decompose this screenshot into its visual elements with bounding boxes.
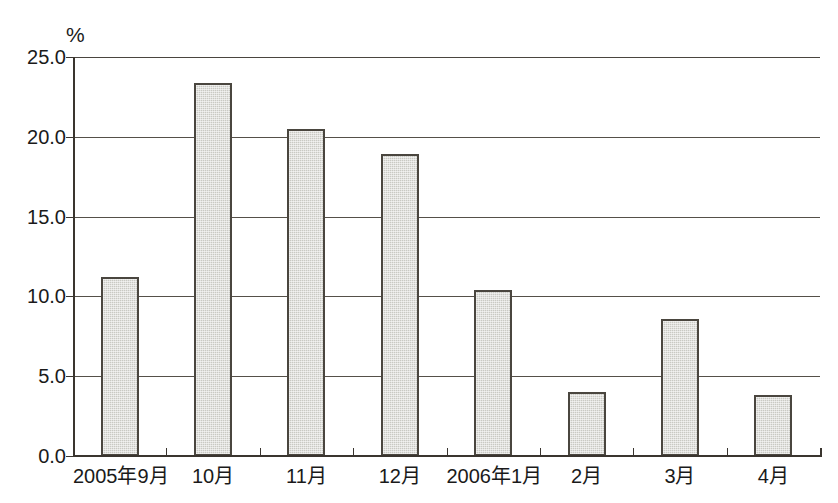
- y-axis-tick: [66, 456, 74, 457]
- x-axis-category-label: 2005年9月: [73, 465, 166, 487]
- bar: [194, 83, 232, 456]
- x-axis-tick: [447, 448, 448, 456]
- y-axis-tick-label: 0.0: [2, 446, 66, 466]
- y-axis-tick: [66, 57, 74, 58]
- bar: [568, 392, 606, 456]
- y-axis-tick-label: 25.0: [2, 47, 66, 67]
- x-axis-category-label: 11月: [260, 465, 353, 487]
- x-axis-line: [73, 455, 822, 457]
- y-axis-tick: [66, 217, 74, 218]
- bar-chart: % 0.05.010.015.020.025.0 2005年9月10月11月12…: [0, 0, 838, 503]
- y-axis-unit-label: %: [66, 24, 85, 45]
- y-axis-tick-label: 20.0: [2, 127, 66, 147]
- x-axis-category-label: 4月: [727, 465, 820, 487]
- y-axis-tick-label: 10.0: [2, 286, 66, 306]
- x-axis-right-cap: [820, 448, 822, 457]
- x-axis-category-label: 3月: [633, 465, 726, 487]
- bar: [754, 395, 792, 456]
- x-axis-category-label: 2006年1月: [447, 465, 540, 487]
- x-axis-category-label: 12月: [353, 465, 446, 487]
- bar: [661, 319, 699, 456]
- gridline: [73, 296, 820, 297]
- x-axis-category-label: 2月: [540, 465, 633, 487]
- x-axis-category-label: 10月: [166, 465, 259, 487]
- y-axis-tick-label: 15.0: [2, 207, 66, 227]
- gridline: [73, 57, 820, 58]
- x-axis-tick: [727, 448, 728, 456]
- bar: [474, 290, 512, 456]
- plot-area: [73, 57, 820, 456]
- y-axis-tick: [66, 137, 74, 138]
- gridline: [73, 137, 820, 138]
- bar: [287, 129, 325, 456]
- y-axis-tick: [66, 376, 74, 377]
- x-axis-tick: [166, 448, 167, 456]
- gridline: [73, 376, 820, 377]
- y-axis-tick: [66, 296, 74, 297]
- bar: [381, 154, 419, 456]
- x-axis-tick: [353, 448, 354, 456]
- x-axis-tick: [260, 448, 261, 456]
- y-axis-line: [73, 57, 75, 457]
- bar: [101, 277, 139, 456]
- y-axis-tick-label: 5.0: [2, 366, 66, 386]
- y-axis-labels: 0.05.010.015.020.025.0: [0, 0, 66, 503]
- gridline: [73, 217, 820, 218]
- x-axis-tick: [633, 448, 634, 456]
- x-axis-tick: [540, 448, 541, 456]
